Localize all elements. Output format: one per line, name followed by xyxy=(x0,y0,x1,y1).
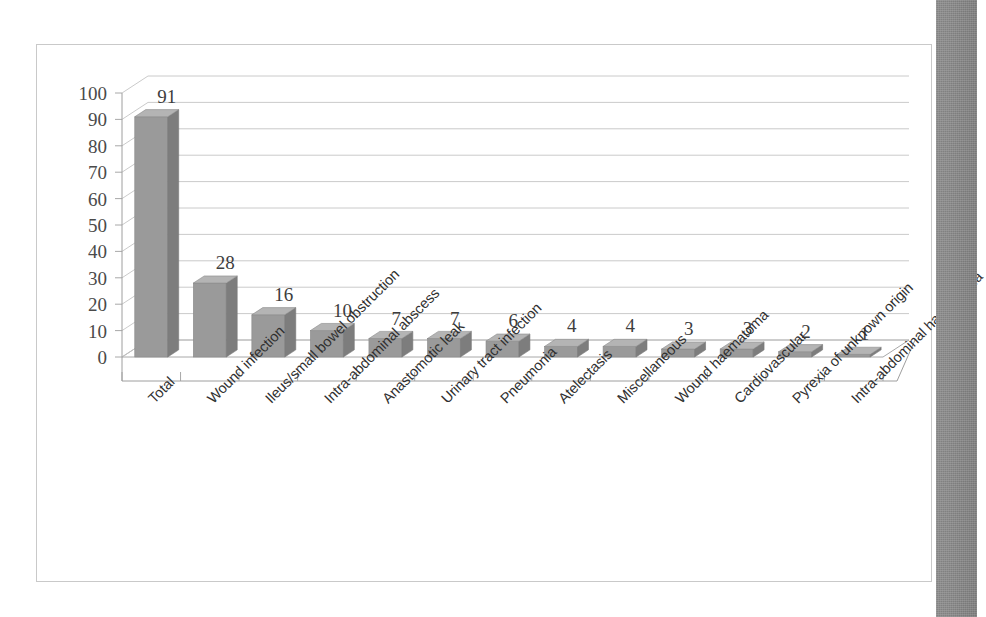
scan-edge-artifact xyxy=(936,0,977,617)
chart-frame: 1009080706050403020100 91281610776443321… xyxy=(36,44,932,582)
y-axis-tick-70: 70 xyxy=(67,163,107,182)
y-axis-tick-20: 20 xyxy=(67,295,107,314)
bar-value-label: 3 xyxy=(684,319,694,338)
y-axis-tick-60: 60 xyxy=(67,190,107,209)
chart-canvas xyxy=(37,45,933,583)
y-axis-tick-10: 10 xyxy=(67,322,107,341)
y-axis-tick-50: 50 xyxy=(67,216,107,235)
y-axis-tick-40: 40 xyxy=(67,242,107,261)
y-axis-tick-30: 30 xyxy=(67,269,107,288)
y-axis-tick-0: 0 xyxy=(67,348,107,367)
y-axis-tick-80: 80 xyxy=(67,137,107,156)
bar-value-label: 28 xyxy=(216,253,235,272)
bar-value-label: 91 xyxy=(157,87,176,106)
bar-value-label: 16 xyxy=(274,285,293,304)
bar-value-label: 4 xyxy=(567,316,577,335)
plot-area: 1009080706050403020100 91281610776443321… xyxy=(37,45,933,583)
scan-edge-texture xyxy=(936,0,977,617)
y-axis-tick-labels: 1009080706050403020100 xyxy=(61,45,107,583)
bar-value-label: 4 xyxy=(626,316,636,335)
y-axis-tick-90: 90 xyxy=(67,110,107,129)
y-axis-tick-100: 100 xyxy=(67,84,107,103)
